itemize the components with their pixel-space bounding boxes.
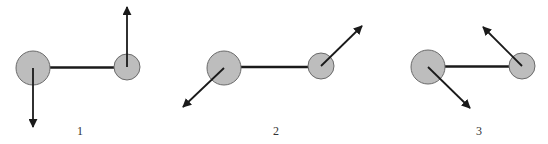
- panel-3: [411, 27, 535, 108]
- panel-label: 1: [77, 125, 83, 137]
- panel-1: [16, 7, 140, 127]
- displacement-arrow-up-left-icon: [483, 27, 522, 66]
- panel-2: [183, 26, 362, 107]
- displacement-arrow-down-left-icon: [183, 68, 224, 107]
- panel-label: 3: [476, 125, 482, 137]
- displacement-arrow-up-right-icon: [321, 26, 362, 66]
- displacement-arrow-down-right-icon: [428, 67, 470, 108]
- panel-label: 2: [273, 125, 279, 137]
- vibration-modes-diagram: [0, 0, 548, 144]
